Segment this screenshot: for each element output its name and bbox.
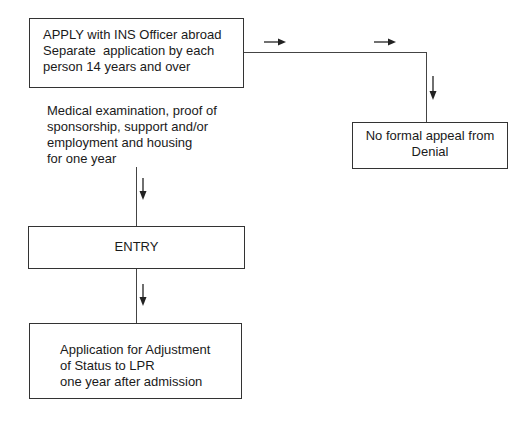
- apply-line-2: Separate application by each: [43, 43, 214, 59]
- requirements-line-2: sponsorship, support and/or: [47, 119, 208, 135]
- arrow-down-icon: [138, 284, 148, 308]
- adjustment-line-1: Application for Adjustment: [60, 342, 210, 358]
- requirements-line-3: employment and housing: [47, 135, 192, 151]
- arrow-down-icon: [138, 178, 148, 202]
- apply-line-1: APPLY with INS Officer abroad: [43, 27, 221, 43]
- apply-line-3: person 14 years and over: [43, 59, 190, 75]
- arrow-right-icon: [374, 37, 398, 47]
- entry-label: ENTRY: [28, 239, 245, 255]
- requirements-line-4: for one year: [47, 151, 116, 167]
- adjustment-line-3: one year after admission: [60, 374, 202, 390]
- requirements-line-1: Medical examination, proof of: [47, 103, 217, 119]
- arrow-right-icon: [264, 37, 288, 47]
- denial-line-2: Denial: [352, 144, 508, 160]
- connector-apply-to-denial-horizontal: [244, 52, 427, 53]
- adjustment-line-2: of Status to LPR: [60, 358, 155, 374]
- denial-line-1: No formal appeal from: [352, 128, 508, 144]
- arrow-down-icon: [428, 76, 438, 102]
